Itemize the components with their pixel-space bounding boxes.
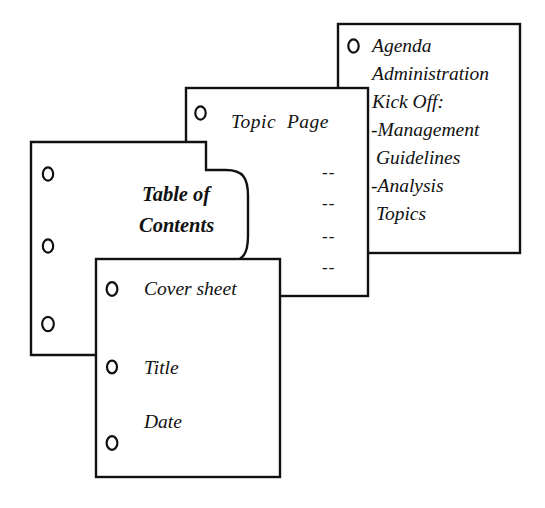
- agenda-line-2: Kick Off:: [371, 91, 444, 112]
- cover-line-2: Date: [143, 411, 182, 432]
- topic-page-dash-0: --: [322, 163, 335, 182]
- cover-line-1: Title: [144, 357, 179, 378]
- toc-title-line-1: Table of: [142, 183, 212, 206]
- agenda-line-4: Guidelines: [371, 147, 460, 168]
- topic-page-dash-3: --: [322, 258, 335, 277]
- agenda-line-1: Administration: [370, 63, 489, 84]
- binder-diagram-canvas: Agenda Administration Kick Off: -Managem…: [0, 0, 545, 508]
- sheet-cover[interactable]: Cover sheet Title Date: [96, 259, 280, 477]
- agenda-line-6: Topics: [371, 203, 426, 224]
- topic-page-dash-1: --: [322, 194, 335, 213]
- toc-title-line-2: Contents: [139, 214, 214, 236]
- agenda-line-5: -Analysis: [371, 175, 444, 196]
- agenda-line-3: -Management: [371, 119, 480, 140]
- agenda-line-0: Agenda: [370, 35, 432, 56]
- topic-page-title: Topic Page: [231, 111, 329, 132]
- topic-page-dash-2: --: [322, 227, 335, 246]
- binder-diagram: Agenda Administration Kick Off: -Managem…: [0, 0, 545, 508]
- cover-line-0: Cover sheet: [144, 278, 237, 299]
